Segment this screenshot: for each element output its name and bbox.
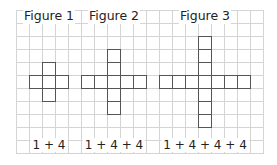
figure-3-square <box>198 36 212 50</box>
figure-3-square <box>224 75 238 89</box>
figure-3-square <box>198 88 212 102</box>
figure-3-square <box>211 75 225 89</box>
figure-3-title: Figure 3 <box>179 8 231 24</box>
figure-3-expression: 1 + 4 + 4 + 4 <box>161 138 249 152</box>
figure-2-square <box>81 75 95 89</box>
figure-3-square <box>185 75 199 89</box>
figure-3-square <box>159 75 173 89</box>
figure-2-square <box>94 75 108 89</box>
figure-1-square <box>29 75 43 89</box>
figure-2-square <box>107 101 121 115</box>
figure-1-expression: 1 + 4 <box>31 138 68 152</box>
figure-1-square <box>42 62 56 76</box>
figure-3-square <box>198 114 212 128</box>
figure-2-square <box>120 75 134 89</box>
figure-2-expression: 1 + 4 + 4 <box>83 138 145 152</box>
figure-3-square <box>172 75 186 89</box>
figure-2-square <box>133 75 147 89</box>
figure-2-square <box>107 49 121 63</box>
figure-3-square <box>198 101 212 115</box>
figure-3-square <box>198 49 212 63</box>
figure-3-square <box>198 62 212 76</box>
figure-1-square <box>55 75 69 89</box>
figure-1-square <box>42 75 56 89</box>
figure-3-square <box>198 75 212 89</box>
figure-1-title: Figure 1 <box>23 8 75 24</box>
figure-2-square <box>107 88 121 102</box>
figure-1-square <box>42 88 56 102</box>
figure-2-square <box>107 75 121 89</box>
figure-3-square <box>237 75 251 89</box>
figure-2-square <box>107 62 121 76</box>
figure-2-title: Figure 2 <box>88 8 140 24</box>
